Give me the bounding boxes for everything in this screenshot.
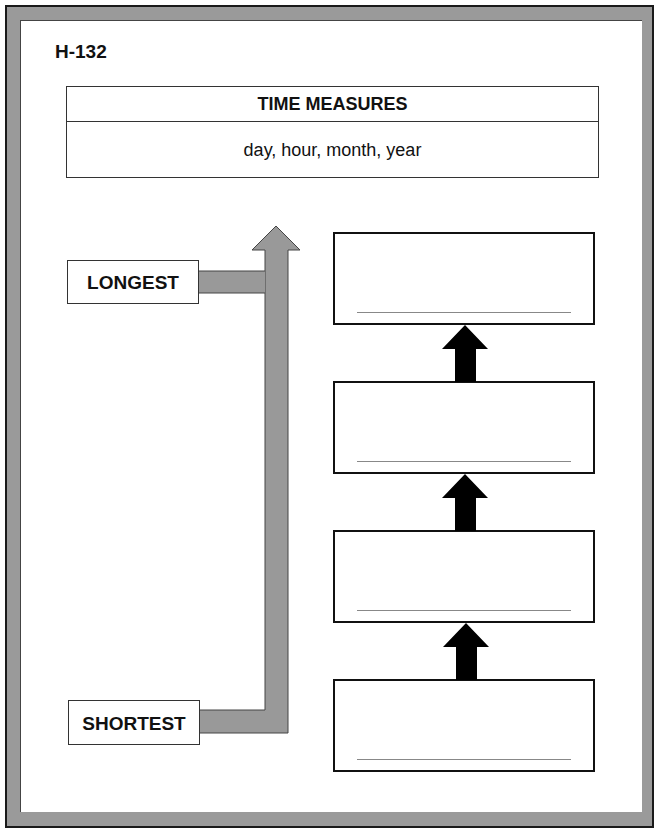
- up-arrow-icon: [443, 623, 489, 680]
- shortest-label: SHORTEST: [68, 700, 200, 745]
- up-arrow-icon: [442, 325, 488, 382]
- up-arrow-icon: [442, 474, 488, 531]
- longest-label: LONGEST: [67, 260, 199, 304]
